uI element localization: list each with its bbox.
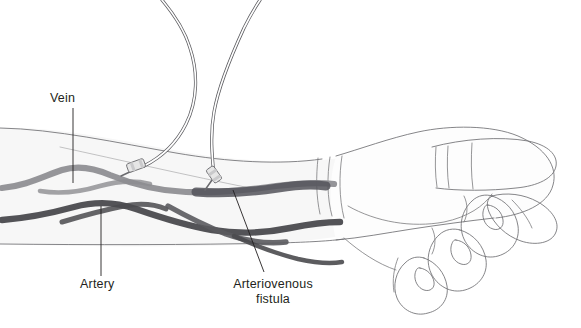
ring-finger-outline	[428, 229, 486, 291]
label-arteriovenous-fistula-line1: Arteriovenous	[233, 277, 313, 291]
palm-to-little-finger	[344, 238, 396, 270]
tube-venous-outer	[144, 0, 196, 166]
ring-finger-nail	[451, 240, 471, 265]
arteriovenous-fistula-diagram: Vein Artery Arteriovenous fistula	[0, 0, 581, 328]
little-finger-nail	[415, 268, 434, 291]
label-artery: Artery	[80, 277, 115, 291]
label-vein: Vein	[50, 91, 75, 105]
tube-arterial-outer	[212, 0, 260, 176]
little-finger-outline	[395, 257, 447, 314]
illustration-canvas: Vein Artery Arteriovenous fistula	[0, 0, 581, 328]
label-arteriovenous-fistula-line2: fistula	[256, 292, 290, 306]
tube-venous-inner	[144, 0, 196, 166]
